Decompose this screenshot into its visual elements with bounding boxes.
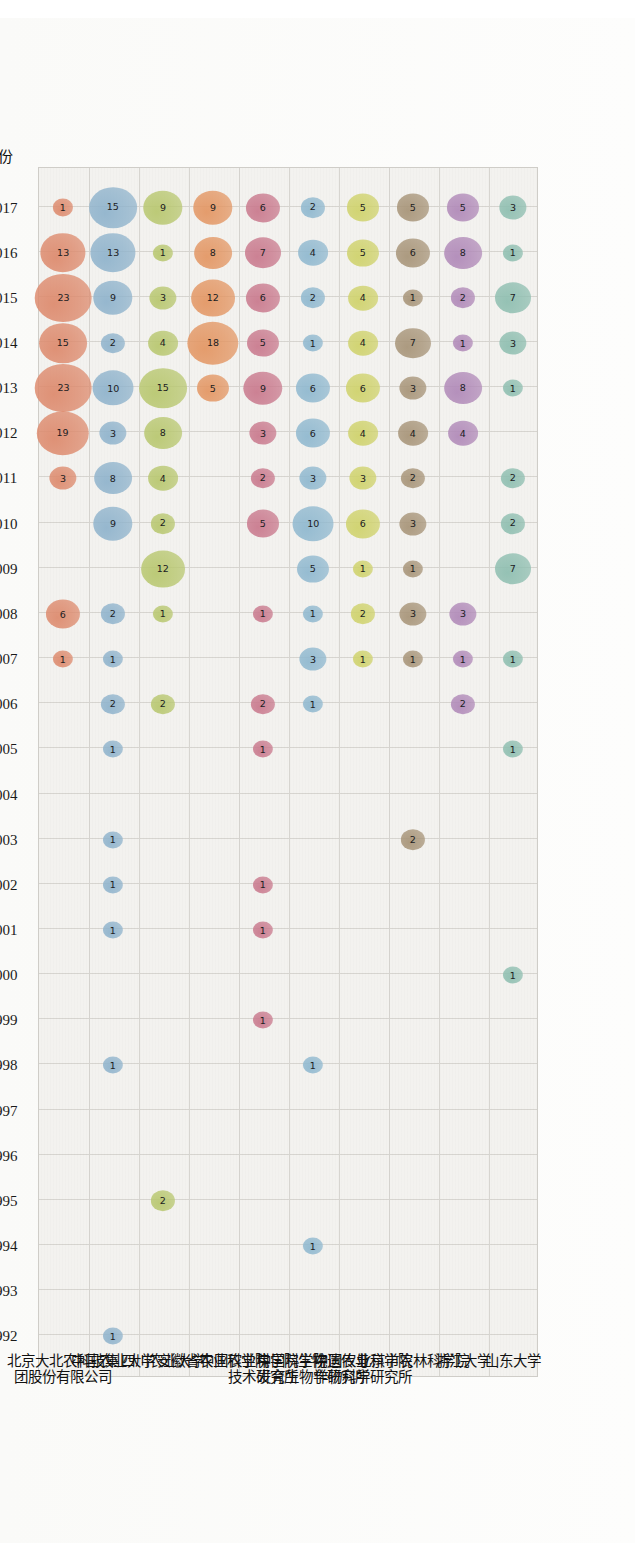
year-tick-label: 2012 [0, 424, 22, 441]
bubble-value-label: 5 [209, 383, 215, 393]
bubble: 13 [40, 233, 85, 271]
gridline-vertical [39, 1153, 537, 1154]
bubble: 2 [150, 1190, 174, 1211]
gridline-vertical [39, 1198, 537, 1199]
bubble: 15 [39, 322, 87, 362]
bubble-value-label: 4 [359, 338, 365, 348]
bubble: 5 [446, 193, 478, 220]
bubble: 1 [502, 966, 522, 983]
bubble: 3 [349, 466, 376, 489]
bubble: 9 [243, 371, 282, 404]
bubble-value-label: 1 [509, 247, 515, 257]
bubble-value-label: 6 [409, 247, 415, 257]
bubble-value-label: 13 [106, 247, 118, 257]
bubble-value-label: 1 [109, 834, 115, 844]
bubble: 3 [399, 512, 426, 535]
bubble: 1 [102, 831, 122, 848]
bubble: 2 [100, 332, 124, 353]
bubble-value-label: 10 [106, 383, 118, 393]
bubble: 2 [450, 694, 474, 715]
bubble-value-label: 5 [459, 202, 465, 212]
bubble-value-label: 1 [259, 609, 265, 619]
bubble-value-label: 15 [106, 202, 118, 212]
gridline-horizontal [489, 168, 490, 1376]
gridline-vertical [39, 1108, 537, 1109]
bubble: 23 [34, 273, 91, 321]
year-tick-label: 2016 [0, 244, 22, 261]
bubble-value-label: 3 [109, 428, 115, 438]
year-tick-label: 2001 [0, 921, 22, 938]
year-tick-label: 2014 [0, 334, 22, 351]
bubble: 1 [352, 560, 372, 577]
bubble: 8 [94, 462, 132, 494]
bubble-value-label: 7 [509, 293, 515, 303]
bubble-value-label: 12 [206, 293, 218, 303]
bubble: 1 [252, 605, 272, 622]
year-tick-label: 1996 [0, 1147, 22, 1164]
bubble: 1 [252, 921, 272, 938]
bubble-value-label: 3 [459, 609, 465, 619]
bubble: 3 [299, 647, 326, 670]
bubble: 3 [249, 421, 276, 444]
year-tick-label: 2013 [0, 379, 22, 396]
bubble: 12 [191, 279, 235, 316]
bubble: 1 [252, 740, 272, 757]
bubble: 3 [299, 466, 326, 489]
bubble: 1 [452, 334, 472, 351]
bubble: 4 [348, 420, 378, 445]
bubble-value-label: 2 [159, 699, 165, 709]
bubble: 12 [141, 550, 185, 587]
bubble-value-label: 2 [459, 293, 465, 303]
bubble-value-label: 5 [409, 202, 415, 212]
bubble-value-label: 2 [409, 834, 415, 844]
page-top-margin [0, 0, 635, 18]
year-tick-label: 2000 [0, 966, 22, 983]
year-tick-label: 2005 [0, 740, 22, 757]
year-tick-label: 1994 [0, 1237, 22, 1254]
bubble-value-label: 23 [56, 383, 68, 393]
bubble-value-label: 3 [509, 338, 515, 348]
bubble-value-label: 1 [509, 654, 515, 664]
bubble-chart: 1992199319941995199619971998199920002001… [38, 167, 598, 1377]
bubble: 18 [187, 321, 238, 365]
bubble: 5 [346, 239, 378, 266]
bubble: 8 [444, 236, 482, 268]
bubble: 1 [52, 199, 72, 216]
year-tick-label: 2003 [0, 831, 22, 848]
institution-label: 山东大学 [423, 1353, 603, 1377]
bubble-value-label: 2 [109, 338, 115, 348]
bubble: 7 [245, 237, 281, 268]
bubble-value-label: 8 [459, 383, 465, 393]
bubble-value-label: 5 [359, 247, 365, 257]
bubble-value-label: 3 [359, 473, 365, 483]
bubble: 7 [495, 553, 531, 584]
bubble: 3 [499, 196, 526, 219]
year-tick-label: 2015 [0, 289, 22, 306]
bubble-value-label: 6 [359, 383, 365, 393]
year-tick-label: 1992 [0, 1327, 22, 1344]
bubble: 2 [300, 197, 324, 218]
bubble-value-label: 1 [309, 1060, 315, 1070]
bubble: 6 [295, 418, 329, 447]
bubble-value-label: 1 [459, 338, 465, 348]
bubble-value-label: 2 [359, 609, 365, 619]
bubble: 23 [34, 364, 91, 412]
gridline-vertical [39, 1018, 537, 1019]
bubble: 2 [100, 694, 124, 715]
bubble-value-label: 1 [259, 744, 265, 754]
gridline-vertical [39, 792, 537, 793]
bubble: 6 [245, 193, 279, 222]
bubble: 1 [402, 650, 422, 667]
bubble: 1 [302, 1237, 322, 1254]
bubble: 3 [99, 421, 126, 444]
bubble: 3 [149, 286, 176, 309]
bubble-value-label: 1 [509, 970, 515, 980]
bubble-value-label: 7 [409, 338, 415, 348]
bubble-value-label: 3 [159, 293, 165, 303]
bubble: 10 [292, 506, 333, 541]
bubble-value-label: 4 [409, 428, 415, 438]
bubble: 1 [152, 244, 172, 261]
bubble-value-label: 1 [59, 202, 65, 212]
bubble: 4 [398, 420, 428, 445]
bubble-value-label: 6 [59, 609, 65, 619]
